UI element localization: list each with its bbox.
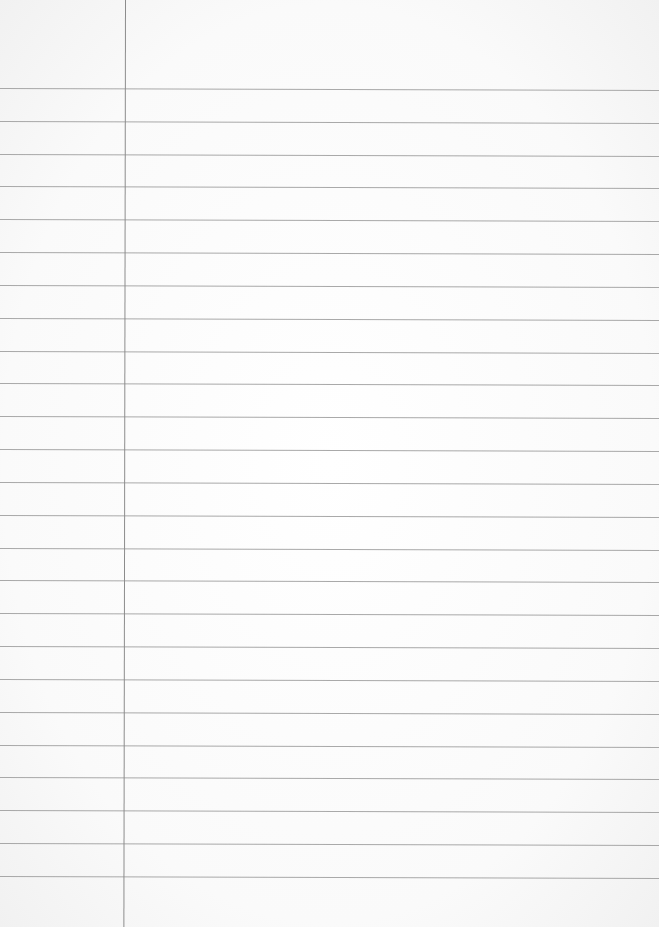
ruled-line [0,843,659,846]
ruled-line [0,580,659,583]
ruled-line [0,449,659,452]
ruled-line [0,482,659,485]
ruled-line [0,646,659,649]
ruled-line [0,712,659,715]
ruled-line [0,383,659,386]
ruled-line [0,548,659,551]
ruled-line [0,186,659,189]
ruled-line [0,351,659,354]
ruled-line [0,154,659,157]
ruled-line [0,876,659,879]
ruled-line [0,318,659,321]
ruled-line [0,252,659,255]
ruled-line [0,285,659,288]
ruled-line [0,88,659,91]
ruled-line [0,777,659,780]
ruled-line [0,416,659,419]
ruled-line [0,515,659,518]
margin-line [123,0,126,927]
ruled-line [0,219,659,222]
ruled-line [0,613,659,616]
ruled-line [0,810,659,813]
ruled-paper [0,0,659,927]
ruled-line [0,745,659,748]
ruled-line [0,121,659,124]
ruled-line [0,679,659,682]
